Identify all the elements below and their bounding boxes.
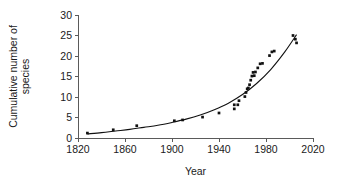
x-axis-tick-label: 1900 <box>160 143 184 155</box>
y-axis-title-line: species <box>19 59 31 95</box>
y-axis-tick-label: 15 <box>60 70 72 82</box>
data-point <box>259 62 262 65</box>
data-point <box>273 50 276 53</box>
data-point <box>254 71 257 74</box>
data-point <box>135 124 138 127</box>
data-point <box>251 75 254 78</box>
data-point <box>181 119 184 122</box>
data-point <box>295 42 298 45</box>
chart-figure: 051015202530182018601900194019802020Year… <box>0 0 337 180</box>
data-point <box>218 112 221 115</box>
y-axis-tick-label: 20 <box>60 50 72 62</box>
data-point <box>253 74 256 77</box>
y-axis-tick-label: 30 <box>60 9 72 21</box>
data-point <box>294 38 297 41</box>
data-point <box>245 91 248 94</box>
data-point <box>252 71 255 74</box>
y-axis-tick-label: 5 <box>66 111 72 123</box>
x-axis-tick-label: 1860 <box>113 143 137 155</box>
data-point <box>248 83 251 86</box>
data-point <box>261 62 264 65</box>
y-axis-tick-label: 25 <box>60 29 72 41</box>
data-point <box>268 54 271 57</box>
data-point <box>233 108 236 111</box>
data-point <box>86 132 89 135</box>
fit-curve <box>87 35 296 134</box>
data-point <box>292 34 295 37</box>
x-axis-tick-label: 1940 <box>207 143 231 155</box>
data-point <box>233 103 236 106</box>
data-point <box>238 99 241 102</box>
y-axis-tick-label: 10 <box>60 91 72 103</box>
y-axis-title-line: Cumulative number of <box>7 25 19 128</box>
x-axis-tick-label: 2020 <box>301 143 325 155</box>
data-point <box>247 87 250 90</box>
data-point <box>244 95 247 98</box>
data-point <box>271 51 274 54</box>
x-axis-title: Year <box>185 165 207 177</box>
data-point <box>236 103 239 106</box>
data-point <box>256 67 259 70</box>
data-point <box>249 79 252 82</box>
data-point <box>112 128 115 131</box>
x-axis-tick-label: 1980 <box>254 143 278 155</box>
x-axis-tick-label: 1820 <box>66 143 90 155</box>
data-point <box>201 116 204 119</box>
data-point <box>173 119 176 122</box>
scatter-chart: 051015202530182018601900194019802020Year… <box>0 0 337 180</box>
